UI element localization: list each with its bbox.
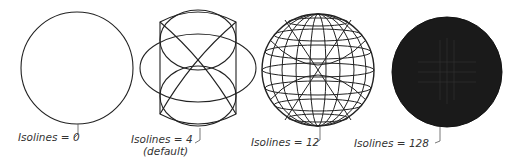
sphere-isolines-12 bbox=[262, 14, 374, 143]
leader-line bbox=[435, 127, 440, 143]
leader-line bbox=[195, 128, 200, 143]
sphere-isolines-0 bbox=[21, 12, 133, 138]
label-isolines-12: Isolines = 12 bbox=[251, 136, 319, 148]
sphere-isolines-4 bbox=[140, 10, 256, 143]
label-isolines-0: Isolines = 0 bbox=[18, 131, 80, 143]
label-isolines-128: Isolines = 128 bbox=[354, 137, 429, 149]
label-isolines-4: Isolines = 4 bbox=[131, 133, 193, 145]
sphere-isolines-128 bbox=[392, 17, 502, 143]
label-isolines-4-default-note: (default) bbox=[143, 145, 188, 157]
